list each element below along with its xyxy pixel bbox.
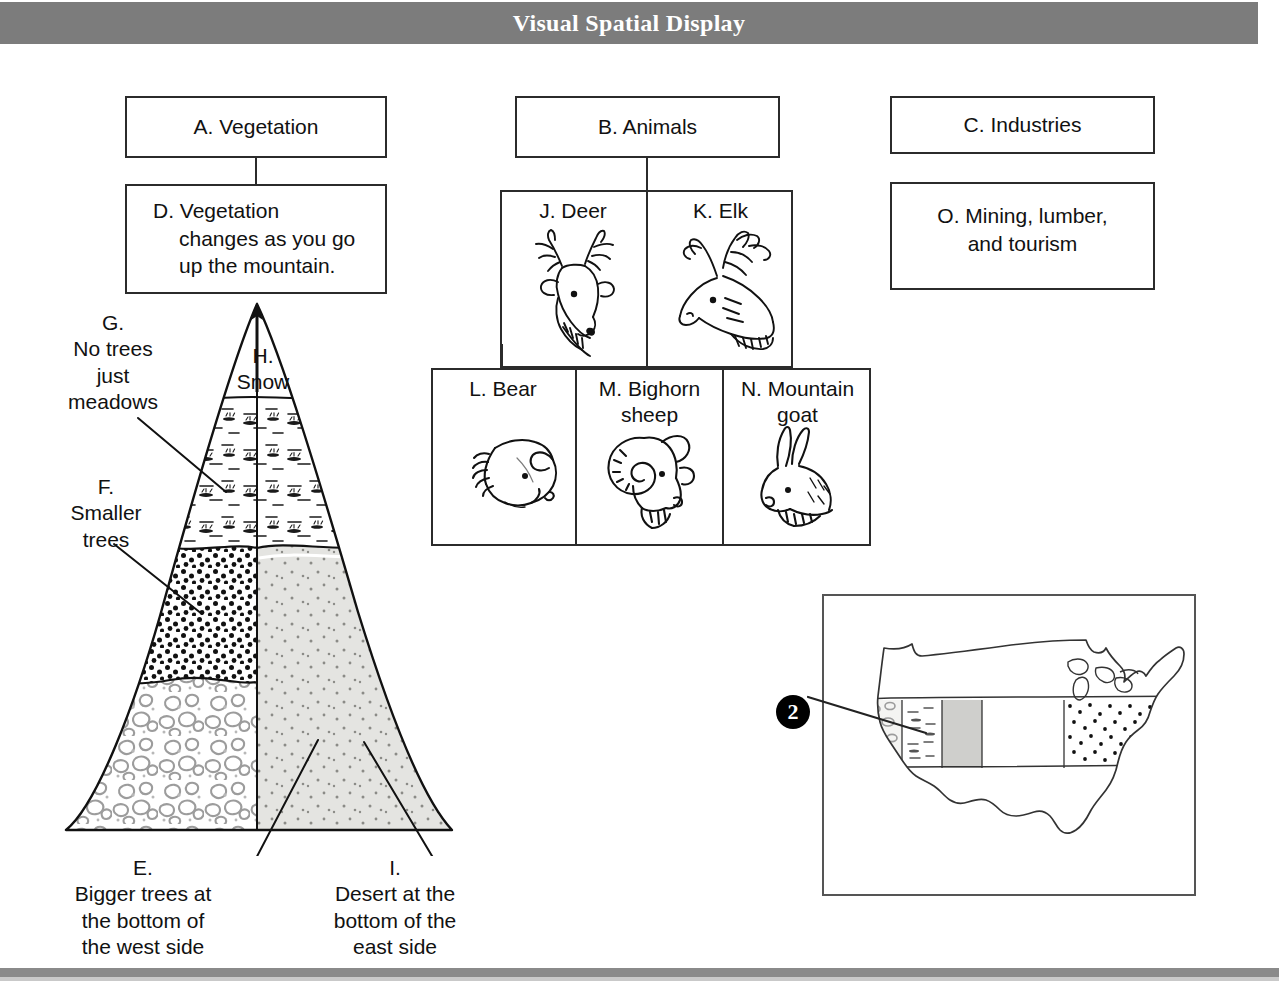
- connector-lower-row-top: [501, 368, 793, 370]
- box-a-vegetation[interactable]: A. Vegetation: [125, 96, 387, 158]
- box-b-animals[interactable]: B. Animals: [515, 96, 780, 158]
- mountain-goat-head-icon: [748, 422, 858, 536]
- mountain-label-f: F. Smaller trees: [40, 474, 172, 553]
- us-map-inset: [822, 594, 1196, 896]
- connector-a-to-d: [255, 158, 257, 184]
- page-title: Visual Spatial Display: [0, 2, 1258, 44]
- mountain-label-h: H. Snow: [222, 343, 304, 396]
- map-callout-badge[interactable]: 2: [776, 695, 810, 729]
- connector-b-to-animals: [646, 158, 648, 190]
- box-d-line-1: D. Vegetation: [153, 197, 371, 225]
- footer-band: [0, 968, 1279, 977]
- bighorn-sheep-head-icon: [600, 424, 706, 536]
- visual-spatial-display-page: Visual Spatial Display A. Vegetation D. …: [0, 0, 1279, 987]
- elk-head-icon: [665, 218, 795, 364]
- us-map: [824, 596, 1194, 894]
- header-band: Visual Spatial Display: [0, 2, 1258, 44]
- cell-label-mountain-goat: N. Mountain goat: [724, 376, 871, 427]
- cell-label-bighorn-sheep: M. Bighorn sheep: [577, 376, 722, 427]
- deer-head-icon: [522, 222, 630, 366]
- box-o-industries-detail[interactable]: O. Mining, lumber, and tourism: [890, 182, 1155, 290]
- great-lakes: [1068, 659, 1138, 700]
- box-d-line-2: changes as you go: [153, 225, 371, 253]
- box-a-label: A. Vegetation: [194, 113, 319, 141]
- box-c-label: C. Industries: [964, 111, 1082, 139]
- map-callout-leader-line: [806, 693, 928, 735]
- connector-goat-up: [791, 344, 793, 370]
- mountain-label-g: G. No trees just meadows: [38, 310, 188, 415]
- box-d-line-3: up the mountain.: [153, 252, 371, 280]
- mountain-label-e: E. Bigger trees at the bottom of the wes…: [38, 855, 248, 960]
- connector-bear-up: [501, 344, 503, 370]
- box-b-label: B. Animals: [598, 113, 697, 141]
- box-o-label: O. Mining, lumber, and tourism: [892, 202, 1153, 259]
- mountain-label-i: I. Desert at the bottom of the east side: [290, 855, 500, 960]
- box-d-vegetation-detail[interactable]: D. Vegetation changes as you go up the m…: [125, 184, 387, 294]
- footer-band-shadow: [0, 977, 1279, 981]
- box-c-industries[interactable]: C. Industries: [890, 96, 1155, 154]
- cell-label-deer: J. Deer: [500, 198, 646, 224]
